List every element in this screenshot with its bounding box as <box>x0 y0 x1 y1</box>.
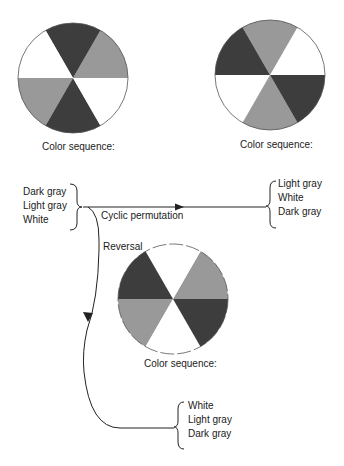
sequence-item: Light gray <box>278 177 322 191</box>
color-wheel-top-right <box>215 20 325 130</box>
sequence-item: Light gray <box>188 413 232 427</box>
sequence-item: Dark gray <box>23 185 67 199</box>
wheel-caption-bottom: Color sequence: <box>144 358 217 369</box>
sequence-cyclic: Light gray White Dark gray <box>278 177 322 219</box>
sequence-item: White <box>188 399 232 413</box>
sequence-item: Dark gray <box>188 427 232 441</box>
brace-original <box>70 184 82 230</box>
sequence-item: White <box>278 191 322 205</box>
wheel-caption-top-left: Color sequence: <box>42 141 115 152</box>
sequence-reversed: White Light gray Dark gray <box>188 399 232 441</box>
sequence-item: Light gray <box>23 199 67 213</box>
diagram-canvas <box>0 0 344 466</box>
reversal-label: Reversal <box>103 241 142 252</box>
cyclic-permutation-label: Cyclic permutation <box>101 210 183 221</box>
brace-cyclic <box>266 181 276 228</box>
color-wheel-top-left <box>18 23 128 133</box>
sequence-item: Dark gray <box>278 205 322 219</box>
brace-reversed <box>174 402 184 449</box>
sequence-item: White <box>23 213 67 227</box>
sequence-original: Dark gray Light gray White <box>23 185 67 227</box>
color-wheel-bottom <box>118 244 228 354</box>
wheel-caption-top-right: Color sequence: <box>240 139 313 150</box>
